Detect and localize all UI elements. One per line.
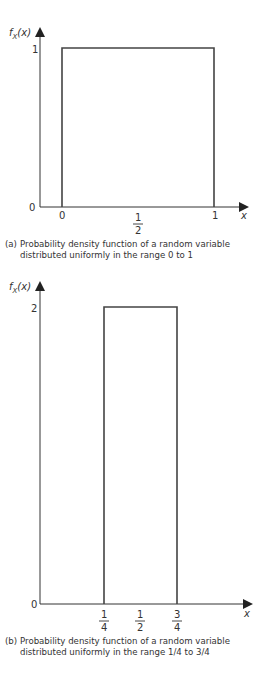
chart-b-caption: (b)Probability density function of a ran… <box>5 636 267 657</box>
chart-b-ylabel: fX(x) <box>9 281 31 295</box>
chart-b-xlabel: x <box>243 608 250 619</box>
chart-b-ytick-0: 0 <box>31 599 37 610</box>
chart-b-xtick-half-den: 2 <box>137 622 143 633</box>
chart-b-caption-line1: Probability density function of a random… <box>20 636 230 646</box>
chart-a-y-arrow-icon <box>35 27 45 37</box>
chart-b: fX(x) 2 0 1 4 1 2 3 4 x <box>9 281 253 633</box>
chart-a-caption-line1: Probability density function of a random… <box>20 239 230 249</box>
chart-a: fX(x) 1 0 0 1 2 1 x <box>9 27 249 236</box>
chart-a-caption-tag: (a) <box>5 239 20 250</box>
chart-b-density-line <box>104 307 177 604</box>
chart-b-ytick-2: 2 <box>31 303 37 314</box>
chart-a-xtick-1: 1 <box>212 210 218 221</box>
chart-a-ytick-1: 1 <box>32 44 38 55</box>
chart-b-xtick-q1-num: 1 <box>101 609 107 620</box>
chart-a-xtick-0: 0 <box>59 210 65 221</box>
chart-b-y-arrow-icon <box>35 281 45 291</box>
chart-a-caption: (a)Probability density function of a ran… <box>5 239 267 260</box>
chart-b-caption-tag: (b) <box>5 636 20 647</box>
chart-a-xtick-half-den: 2 <box>135 225 141 236</box>
chart-b-xtick-q3-num: 3 <box>174 609 180 620</box>
chart-a-xtick-half-num: 1 <box>135 212 141 223</box>
chart-a-caption-line2: distributed uniformly in the range 0 to … <box>5 250 267 261</box>
chart-b-caption-line2: distributed uniformly in the range 1/4 t… <box>5 647 267 658</box>
chart-b-xtick-q3-den: 4 <box>174 622 180 633</box>
chart-b-xtick-half-num: 1 <box>137 609 143 620</box>
figure-canvas: fX(x) 1 0 0 1 2 1 x fX(x) 2 0 1 4 1 2 3 … <box>0 0 271 673</box>
chart-a-ytick-0: 0 <box>29 202 35 213</box>
chart-a-density-line <box>62 48 214 207</box>
chart-a-xlabel: x <box>240 210 247 221</box>
chart-a-ylabel: fX(x) <box>9 27 31 41</box>
chart-b-xtick-q1-den: 4 <box>101 622 107 633</box>
